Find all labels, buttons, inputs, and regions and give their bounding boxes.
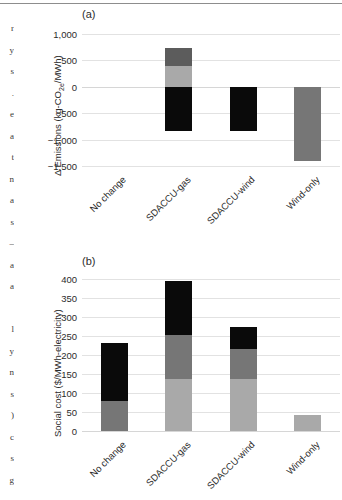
panel-b-bar-segment xyxy=(101,343,128,401)
panel-a-y-axis-label-sub: 2e xyxy=(58,83,65,91)
page-margin-text: r y s . e a t n a s – a a l y n s ) c s … xyxy=(0,18,14,488)
panel-b-y-tick-label: 300 xyxy=(61,312,77,323)
panel-b-bar-segment xyxy=(165,281,192,335)
panel-b-plot-area: 400350300250200150100500 xyxy=(82,279,340,431)
panel-a-y-tick-label: 0 xyxy=(72,81,77,92)
panel-a-bar-segment xyxy=(165,66,192,87)
panel-b-x-label: Wind-only xyxy=(284,439,322,477)
page-top-rule xyxy=(0,3,342,4)
panel-b-x-label: SDACCU-gas xyxy=(143,439,192,488)
panel-b-gridline xyxy=(82,431,340,432)
panel-b-bar-segment xyxy=(165,335,192,379)
panel-a-x-label: Wind-only xyxy=(284,174,322,212)
panel-a-bar-segment xyxy=(294,87,321,161)
panel-b-x-label: No change xyxy=(88,439,128,479)
panel-b-tag: (b) xyxy=(82,255,95,267)
panel-b-bar-segment xyxy=(230,379,257,431)
panel-a-bar-segment xyxy=(165,87,192,131)
panel-a-gridline xyxy=(82,166,340,167)
panel-a-x-label: SDACCU-gas xyxy=(143,174,192,223)
panel-a-y-tick-label: 500 xyxy=(61,55,77,66)
panel-b-bar-wind-only xyxy=(294,279,321,431)
panel-a-y-tick-label: −1,000 xyxy=(48,134,77,145)
panel-b-y-tick-label: 200 xyxy=(61,350,77,361)
panel-a-y-tick-label: −500 xyxy=(56,108,77,119)
panel-b-bar-segment xyxy=(101,401,128,431)
panel-b-y-tick-label: 100 xyxy=(61,388,77,399)
panel-a-x-label: SDACCU-wind xyxy=(205,174,257,226)
panel-b-bar-segment xyxy=(165,379,192,431)
panel-b-bar-sdaccu-wind xyxy=(230,279,257,431)
panel-a-bar-wind-only xyxy=(294,34,321,166)
panel-b-bar-no-change xyxy=(101,279,128,431)
panel-b-y-tick-label: 400 xyxy=(61,274,77,285)
panel-b-bar-segment xyxy=(230,349,257,379)
panel-b-bar-segment xyxy=(294,415,321,431)
panel-a-y-tick-label: 1,000 xyxy=(53,29,77,40)
panel-b-y-tick-label: 0 xyxy=(72,426,77,437)
panel-a-bar-segment xyxy=(165,48,192,66)
panel-b-social-cost: (b) Social cost ($/MWh-electricity) 4003… xyxy=(22,255,342,500)
panel-a-bar-no-change xyxy=(101,34,128,166)
panel-b-y-tick-label: 150 xyxy=(61,369,77,380)
panel-b-bar-sdaccu-gas xyxy=(165,279,192,431)
panel-b-y-tick-label: 350 xyxy=(61,293,77,304)
panel-a-bar-sdaccu-gas xyxy=(165,34,192,166)
panel-b-y-tick-label: 50 xyxy=(66,407,77,418)
panel-b-x-label: SDACCU-wind xyxy=(205,439,257,491)
panel-a-plot-area: 1,0005000−500−1,000−1,500 xyxy=(82,34,340,166)
panel-b-y-tick-label: 250 xyxy=(61,331,77,342)
panel-a-bar-segment xyxy=(230,87,257,131)
panel-a-tag: (a) xyxy=(82,8,95,20)
panel-a-x-label: No change xyxy=(88,174,128,214)
panel-a-emissions: (a) Δ Emissions (kg-CO2e/MWh) 1,0005000−… xyxy=(22,8,342,248)
panel-a-y-tick-label: −1,500 xyxy=(48,161,77,172)
panel-b-bar-segment xyxy=(230,327,257,350)
panel-a-bar-sdaccu-wind xyxy=(230,34,257,166)
